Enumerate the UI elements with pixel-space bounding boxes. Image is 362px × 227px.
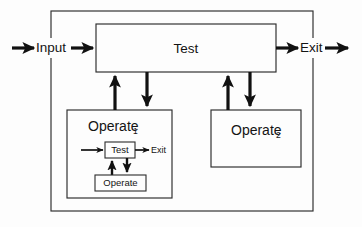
operate-2-box (211, 110, 301, 167)
operate-2-label: Operate (231, 122, 282, 138)
operate-1-label: Operate (88, 118, 139, 134)
diagram-canvas: Test Input Exit Operate 1 Test Exit Oper… (0, 0, 362, 227)
inner-test-label: Test (111, 144, 129, 155)
main-test-label: Test (174, 41, 199, 56)
inner-operate-label: Operate (103, 177, 137, 188)
flowchart-figure: Test Input Exit Operate 1 Test Exit Oper… (0, 0, 362, 227)
operate-2-subscript: 2 (276, 130, 281, 140)
operate-1-subscript: 1 (133, 126, 138, 136)
exit-label: Exit (300, 40, 323, 55)
inner-exit-label: Exit (151, 145, 167, 155)
input-label: Input (36, 40, 66, 55)
